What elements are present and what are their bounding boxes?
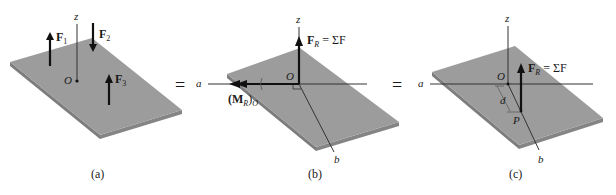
z-axis-label: z (504, 12, 510, 24)
origin-point (507, 83, 510, 86)
force-f2-label: F2 (99, 27, 110, 43)
a-axis-label: a (418, 77, 424, 89)
resultant-force-label: FR = ΣF (307, 33, 346, 49)
distance-label: d (500, 94, 506, 106)
plate (432, 46, 603, 149)
panel-a: z O F1 F2 F3 (a) (10, 10, 182, 181)
force-f1-label: F1 (56, 30, 67, 46)
b-axis-label: b (538, 153, 544, 165)
point-p-label: P (512, 114, 520, 126)
z-axis-label: z (295, 13, 301, 25)
equals-sign: = (392, 75, 402, 95)
panel-c: z a b O d P FR = ΣF (c) (418, 12, 603, 181)
arrowhead-icon (46, 32, 54, 40)
a-axis-label: a (196, 77, 202, 89)
resultant-force-label: FR = ΣF (528, 61, 567, 77)
statics-figure: z O F1 F2 F3 (a) = a b z (0, 0, 616, 195)
caption-a: (a) (91, 167, 104, 181)
origin-point (75, 79, 78, 82)
origin-label: O (64, 74, 72, 86)
caption-b: (b) (308, 167, 322, 181)
origin-label: O (286, 70, 294, 82)
plate (10, 38, 182, 139)
b-axis-label: b (334, 153, 340, 165)
arrowhead-icon (295, 36, 303, 46)
origin-label: O (497, 70, 505, 82)
caption-c: (c) (509, 167, 522, 181)
equals-sign: = (175, 75, 185, 95)
panel-b: a b z FR = ΣF O (MR)O (b) (196, 13, 399, 181)
z-axis-label: z (73, 10, 79, 22)
